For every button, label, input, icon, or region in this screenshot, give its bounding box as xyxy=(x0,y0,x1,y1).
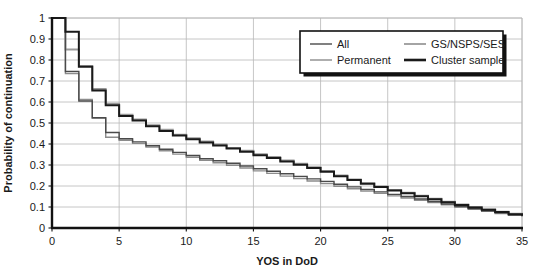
y-tick-label: 0.2 xyxy=(30,180,45,192)
x-tick-label: 20 xyxy=(314,235,326,247)
x-tick-label: 25 xyxy=(382,235,394,247)
continuation-probability-chart: 00.10.20.30.40.50.60.70.80.9105101520253… xyxy=(0,0,541,270)
y-tick-label: 0.7 xyxy=(30,75,45,87)
x-tick-label: 35 xyxy=(516,235,528,247)
y-tick-label: 0.4 xyxy=(30,138,45,150)
y-tick-label: 0.9 xyxy=(30,33,45,45)
x-tick-label: 5 xyxy=(116,235,122,247)
legend-label-all[interactable]: All xyxy=(337,38,349,50)
x-axis-title: YOS in DoD xyxy=(256,255,318,267)
x-tick-label: 15 xyxy=(247,235,259,247)
chart-legend[interactable]: AllGS/NSPS/SESPermanentCluster sample xyxy=(300,31,507,77)
y-tick-label: 1 xyxy=(39,12,45,24)
y-tick-label: 0.3 xyxy=(30,159,45,171)
y-tick-label: 0.8 xyxy=(30,54,45,66)
legend-label-gs-nsps-ses[interactable]: GS/NSPS/SES xyxy=(431,38,505,50)
y-tick-label: 0.5 xyxy=(30,117,45,129)
legend-label-cluster-sample[interactable]: Cluster sample xyxy=(431,54,504,66)
x-tick-label: 10 xyxy=(180,235,192,247)
y-tick-label: 0.6 xyxy=(30,96,45,108)
y-tick-label: 0 xyxy=(39,222,45,234)
legend-label-permanent[interactable]: Permanent xyxy=(337,54,391,66)
x-tick-label: 30 xyxy=(449,235,461,247)
y-axis-title: Probability of continuation xyxy=(2,53,14,193)
x-tick-label: 0 xyxy=(49,235,55,247)
chart-container: 00.10.20.30.40.50.60.70.80.9105101520253… xyxy=(0,0,541,270)
y-tick-label: 0.1 xyxy=(30,201,45,213)
